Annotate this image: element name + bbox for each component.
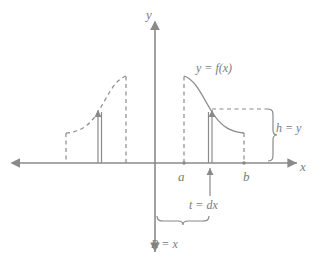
shell-method-diagram: y x a b y = f(x) h = y t = dx R = x (0, 0, 322, 262)
x-axis-label: x (300, 160, 306, 173)
height-brace (268, 109, 277, 161)
representative-strip-left (98, 110, 102, 163)
point-marker-a (182, 161, 186, 165)
y-axis-label: y (146, 8, 152, 21)
thickness-annotation-label: t = dx (189, 199, 218, 211)
height-annotation-label: h = y (276, 122, 301, 134)
diagram-canvas (0, 0, 322, 262)
point-marker-b (242, 161, 246, 165)
function-curve (184, 76, 244, 133)
radius-brace (157, 216, 209, 225)
axis-group (12, 22, 297, 252)
radius-annotation-label: R = x (151, 238, 178, 250)
region-left-mirrored (66, 76, 126, 163)
tick-label-b: b (243, 170, 250, 183)
mirror-function-curve (66, 76, 126, 133)
region-right (182, 76, 268, 165)
curve-equation-label: y = f(x) (196, 62, 232, 74)
representative-strip-right (209, 110, 213, 163)
tick-label-a: a (178, 170, 185, 183)
